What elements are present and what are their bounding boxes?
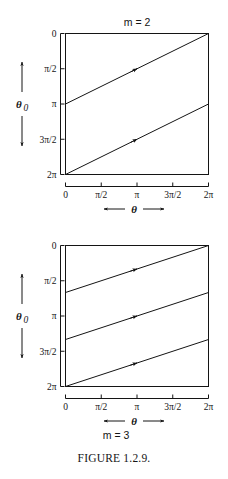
panel-title-m3: m = 3 xyxy=(103,429,130,441)
y-axis-ticks xyxy=(61,34,65,175)
x-axis-label: θ xyxy=(131,415,137,427)
plot-m2: m = 2 0π/2π3π/22π θ 0 0π/2π3π/22π xyxy=(0,0,228,232)
x-tick-label: 3π/2 xyxy=(164,402,181,412)
x-axis-title-group: θ xyxy=(104,415,164,427)
y-tick-label: 3π/2 xyxy=(40,135,57,145)
x-tick-label: π xyxy=(135,402,140,412)
x-tick-label: π/2 xyxy=(95,402,107,412)
y-tick-label: 2π xyxy=(47,382,57,392)
y-tick-label: 0 xyxy=(52,241,57,251)
y-axis-tick-labels: 0π/2π3π/22π xyxy=(40,241,57,392)
y-axis-tick-labels: 0π/2π3π/22π xyxy=(40,29,57,180)
x-tick-label: π/2 xyxy=(95,190,107,200)
y-tick-label: 0 xyxy=(52,29,57,39)
x-axis-tick-labels: 0π/2π3π/22π xyxy=(63,402,213,412)
figure-1-2-9: m = 2 0π/2π3π/22π θ 0 0π/2π3π/22π xyxy=(0,0,228,479)
panel-title-m2: m = 2 xyxy=(124,16,151,28)
x-tick-label: 2π xyxy=(204,190,214,200)
y-axis-label-subscript: 0 xyxy=(24,315,29,325)
x-axis-label: θ xyxy=(131,203,137,215)
plot-frame xyxy=(66,34,209,175)
y-axis-label: θ xyxy=(16,310,22,322)
x-tick-label: 0 xyxy=(63,402,68,412)
direction-arrow-icon xyxy=(131,139,137,142)
x-axis-ticks xyxy=(66,183,209,187)
data-series-group xyxy=(66,246,209,387)
figure-caption: FIGURE 1.2.9. xyxy=(0,452,228,464)
chart-panel-m2: m = 2 0π/2π3π/22π θ 0 0π/2π3π/22π xyxy=(0,0,228,232)
x-tick-label: 3π/2 xyxy=(164,190,181,200)
chart-panel-m3: 0π/2π3π/22π θ 0 0π/2π3π/22π θ m = 3 xyxy=(0,232,228,442)
y-tick-label: 2π xyxy=(47,170,57,180)
x-tick-label: 0 xyxy=(63,190,68,200)
x-axis-title-group: θ xyxy=(104,203,164,215)
y-tick-label: π/2 xyxy=(44,276,56,286)
x-axis-tick-labels: 0π/2π3π/22π xyxy=(63,190,213,200)
y-tick-label: π xyxy=(52,99,57,109)
x-axis-ticks xyxy=(66,395,209,399)
y-axis-title-group: θ 0 xyxy=(16,62,29,146)
direction-arrow-icon xyxy=(130,316,137,318)
y-axis-label-subscript: 0 xyxy=(24,103,29,113)
plot-m3: 0π/2π3π/22π θ 0 0π/2π3π/22π θ m = 3 xyxy=(0,232,228,442)
y-tick-label: π xyxy=(52,311,57,321)
direction-arrow-icon xyxy=(130,269,137,271)
y-axis-label: θ xyxy=(16,98,22,110)
y-axis-title-group: θ 0 xyxy=(16,274,29,358)
direction-arrow-icon xyxy=(131,69,137,72)
direction-arrow-icon xyxy=(130,363,137,365)
data-series-group xyxy=(66,34,209,175)
y-tick-label: π/2 xyxy=(44,64,56,74)
y-tick-label: 3π/2 xyxy=(40,347,57,357)
x-tick-label: π xyxy=(135,190,140,200)
x-tick-label: 2π xyxy=(204,402,214,412)
y-axis-ticks xyxy=(61,246,65,387)
